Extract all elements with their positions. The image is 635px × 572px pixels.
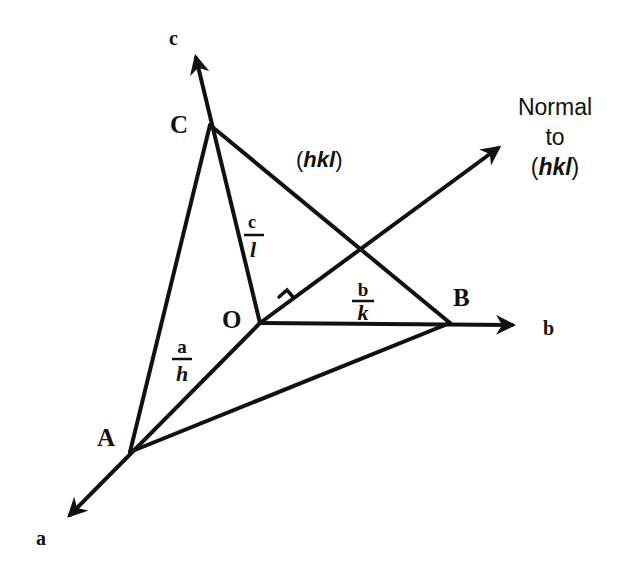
- b-axis-line: [260, 323, 512, 325]
- diagram-svg: c b a C B A O c l b k a h (hkl) Normal t…: [0, 0, 635, 572]
- point-B-label: B: [453, 284, 470, 311]
- c-over-l-fraction: c l: [244, 212, 264, 262]
- fraction-numerator: a: [177, 336, 187, 357]
- a-over-h-fraction: a h: [172, 336, 192, 386]
- normal-label-line2: to: [545, 124, 564, 150]
- normal-label-line1: Normal: [518, 94, 592, 120]
- point-A-label: A: [97, 424, 115, 451]
- fraction-denominator: l: [250, 237, 257, 262]
- normal-label: Normal to (hkl): [518, 94, 592, 180]
- normal-indices: hkl: [538, 154, 572, 180]
- fraction-numerator: c: [248, 212, 256, 232]
- plane-edge-CA: [130, 125, 210, 452]
- plane-hkl-label: (hkl): [296, 147, 342, 172]
- normal-label-line3: (hkl): [531, 154, 580, 180]
- a-axis-line: [70, 323, 260, 515]
- b-over-k-fraction: b k: [352, 279, 374, 325]
- fraction-numerator: b: [358, 279, 369, 300]
- origin-O-label: O: [222, 306, 241, 333]
- point-C-label: C: [170, 111, 188, 138]
- fraction-denominator: k: [358, 300, 369, 325]
- fraction-denominator: h: [176, 361, 188, 386]
- c-axis-line: [196, 58, 260, 323]
- miller-plane-diagram: c b a C B A O c l b k a h (hkl) Normal t…: [0, 0, 635, 572]
- right-angle-marker-icon: [279, 290, 293, 297]
- c-axis-label: c: [169, 27, 178, 49]
- paren-close: ): [335, 147, 342, 172]
- a-axis-label: a: [36, 527, 46, 549]
- plane-indices: hkl: [303, 147, 336, 172]
- b-axis-label: b: [543, 317, 554, 339]
- paren-close: ): [572, 154, 580, 180]
